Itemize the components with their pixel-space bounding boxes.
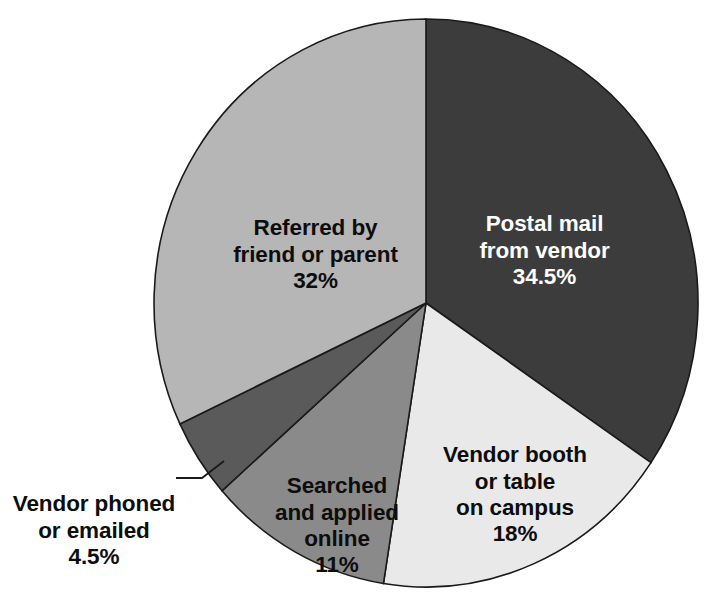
pie-chart: Postal mail from vendor 34.5% Vendor boo… [0,0,714,601]
pie-slices-group [154,19,698,587]
pie-chart-canvas [0,0,714,601]
